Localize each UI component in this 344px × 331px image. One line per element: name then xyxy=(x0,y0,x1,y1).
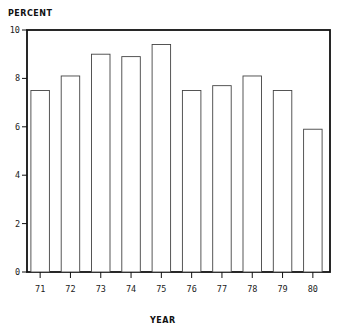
bar-80 xyxy=(304,129,323,272)
x-tick-label-71: 71 xyxy=(35,284,45,294)
x-tick-label-72: 72 xyxy=(65,284,75,294)
y-tick-label-10: 10 xyxy=(10,25,20,35)
bar-chart: 717273747576777879800246810 xyxy=(0,0,344,331)
bar-76 xyxy=(182,91,201,273)
x-tick-label-73: 73 xyxy=(96,284,106,294)
bar-75 xyxy=(152,45,171,272)
x-tick-label-74: 74 xyxy=(126,284,136,294)
x-tick-label-80: 80 xyxy=(308,284,318,294)
bar-77 xyxy=(213,86,232,272)
y-tick-label-8: 8 xyxy=(15,73,20,83)
y-tick-label-0: 0 xyxy=(15,267,20,277)
x-tick-label-75: 75 xyxy=(156,284,166,294)
y-tick-label-2: 2 xyxy=(15,219,20,229)
y-tick-label-4: 4 xyxy=(15,170,20,180)
bar-73 xyxy=(92,54,111,272)
y-tick-label-6: 6 xyxy=(15,122,20,132)
bar-71 xyxy=(31,91,50,273)
bar-72 xyxy=(61,76,79,272)
bar-74 xyxy=(122,57,141,272)
x-tick-label-78: 78 xyxy=(247,284,257,294)
bar-79 xyxy=(273,91,292,273)
bar-78 xyxy=(243,76,262,272)
x-tick-label-76: 76 xyxy=(187,284,197,294)
x-tick-label-77: 77 xyxy=(217,284,227,294)
x-tick-label-79: 79 xyxy=(277,284,287,294)
